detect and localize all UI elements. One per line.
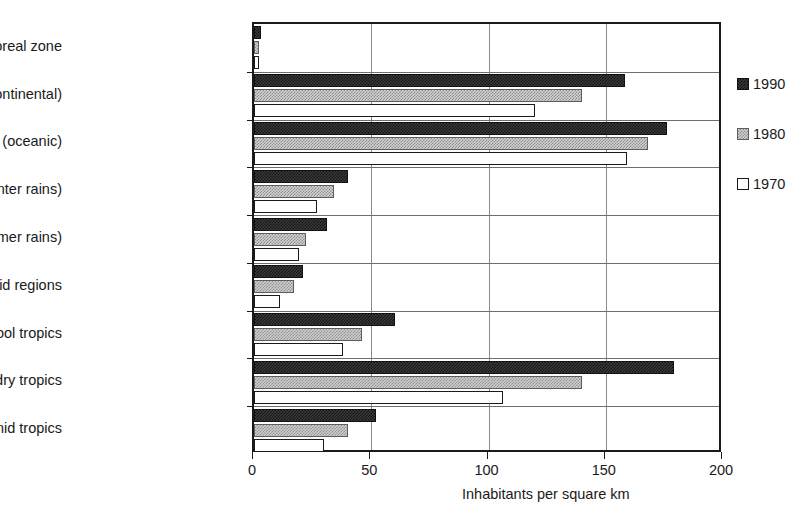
bar-1980-1 bbox=[254, 89, 582, 102]
x-tick-150 bbox=[604, 452, 605, 459]
x-tick-50 bbox=[369, 452, 370, 459]
bar-1970-4 bbox=[254, 248, 299, 261]
bar-1970-7 bbox=[254, 391, 503, 404]
x-tick-label-150: 150 bbox=[574, 462, 634, 478]
bar-1970-2 bbox=[254, 152, 627, 165]
bar-1970-3 bbox=[254, 200, 317, 213]
x-tick-label-200: 200 bbox=[691, 462, 751, 478]
category-tick bbox=[247, 215, 254, 216]
category-tick bbox=[247, 167, 254, 168]
legend-item-1970[interactable]: 1970 bbox=[737, 176, 785, 192]
bar-1970-5 bbox=[254, 295, 280, 308]
category-tick bbox=[247, 358, 254, 359]
gridline-150 bbox=[606, 24, 607, 450]
category-label-2: Temperate zone (oceanic) bbox=[0, 134, 62, 149]
bar-1980-8 bbox=[254, 424, 348, 437]
legend-item-1990[interactable]: 1990 bbox=[737, 76, 785, 92]
gray-checkered-swatch bbox=[737, 128, 749, 140]
bar-1980-5 bbox=[254, 280, 294, 293]
bar-chart: Boreal zoneTemperate zone (continental)T… bbox=[0, 0, 804, 520]
category-separator bbox=[254, 406, 719, 407]
bar-1990-1 bbox=[254, 74, 625, 87]
bar-1980-6 bbox=[254, 328, 362, 341]
x-tick-100 bbox=[487, 452, 488, 459]
bar-1980-2 bbox=[254, 137, 648, 150]
category-label-0: Boreal zone bbox=[0, 39, 62, 54]
bar-1990-8 bbox=[254, 409, 376, 422]
category-tick bbox=[247, 406, 254, 407]
legend-label-1990: 1990 bbox=[753, 76, 785, 92]
category-label-3: Subtropics (winter rains) bbox=[0, 182, 62, 197]
category-separator bbox=[254, 263, 719, 264]
bar-1990-0 bbox=[254, 26, 261, 39]
bar-1970-8 bbox=[254, 439, 324, 452]
category-separator bbox=[254, 167, 719, 168]
category-separator bbox=[254, 72, 719, 73]
category-tick bbox=[247, 120, 254, 121]
category-tick bbox=[247, 263, 254, 264]
category-label-1: Temperate zone (continental) bbox=[0, 87, 62, 102]
bar-1980-7 bbox=[254, 376, 582, 389]
x-axis-title-text: Inhabitants per square km bbox=[462, 486, 630, 502]
bar-1970-1 bbox=[254, 104, 535, 117]
bar-1990-4 bbox=[254, 218, 327, 231]
category-label-7: Warm seasonally dry tropics bbox=[0, 373, 62, 388]
category-label-6: Cool tropics bbox=[0, 326, 62, 341]
bar-1990-5 bbox=[254, 265, 303, 278]
bar-1990-2 bbox=[254, 122, 667, 135]
white-outline-swatch bbox=[737, 178, 749, 190]
dark-checkered-swatch bbox=[737, 78, 749, 90]
category-separator bbox=[254, 311, 719, 312]
bar-1990-7 bbox=[254, 361, 674, 374]
category-tick bbox=[247, 72, 254, 73]
bar-1990-3 bbox=[254, 170, 348, 183]
category-label-4: Subtropics (summer rains) bbox=[0, 230, 62, 245]
bar-1980-4 bbox=[254, 233, 306, 246]
bar-1990-6 bbox=[254, 313, 395, 326]
category-separator bbox=[254, 358, 719, 359]
legend-label-1970: 1970 bbox=[753, 176, 785, 192]
x-tick-200 bbox=[721, 452, 722, 459]
plot-area bbox=[252, 22, 721, 452]
category-tick bbox=[247, 311, 254, 312]
legend-label-1980: 1980 bbox=[753, 126, 785, 142]
bar-1970-0 bbox=[254, 56, 259, 69]
category-separator bbox=[254, 215, 719, 216]
category-label-5: Arid regions bbox=[0, 278, 62, 293]
bar-1980-3 bbox=[254, 185, 334, 198]
x-tick-label-100: 100 bbox=[457, 462, 517, 478]
bar-1970-6 bbox=[254, 343, 343, 356]
category-separator bbox=[254, 120, 719, 121]
bar-1980-0 bbox=[254, 41, 259, 54]
category-label-8: Warm humid tropics bbox=[0, 421, 62, 436]
x-tick-label-50: 50 bbox=[339, 462, 399, 478]
x-tick-label-0: 0 bbox=[222, 462, 282, 478]
legend-item-1980[interactable]: 1980 bbox=[737, 126, 785, 142]
x-tick-0 bbox=[252, 452, 253, 459]
